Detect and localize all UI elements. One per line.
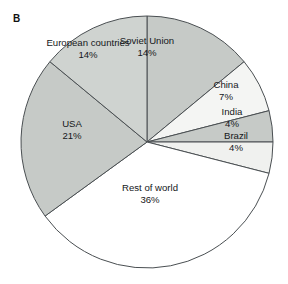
pie-chart: [0, 0, 288, 284]
pie-slices-group: [21, 16, 273, 268]
pie-chart-figure-panel: B Soviet Union14%China7%India4%Brazil4%R…: [0, 0, 288, 284]
